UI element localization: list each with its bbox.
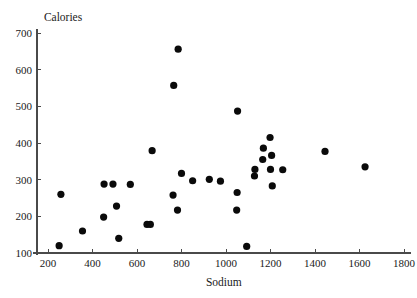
y-tick-label: 200	[15, 210, 32, 222]
data-point	[189, 177, 196, 184]
data-point	[259, 156, 266, 163]
data-point	[170, 82, 177, 89]
data-point	[243, 243, 250, 250]
data-point	[251, 166, 258, 173]
y-tick-label: 400	[15, 137, 32, 149]
x-tick-label: 1400	[304, 257, 327, 269]
data-point	[169, 191, 176, 198]
x-tick-label: 600	[129, 257, 146, 269]
data-point	[174, 207, 181, 214]
x-tick-label: 1800	[393, 257, 416, 269]
y-axis-title: Calories	[44, 11, 83, 23]
data-point	[178, 170, 185, 177]
data-point	[251, 172, 258, 179]
data-point	[175, 46, 182, 53]
x-tick-label: 1600	[349, 257, 372, 269]
x-tick-label: 800	[173, 257, 190, 269]
scatter-plot-figure: 1002003004005006007002004006008001000120…	[0, 0, 417, 298]
y-tick-label: 100	[15, 247, 32, 259]
data-point	[149, 147, 156, 154]
data-point	[266, 134, 273, 141]
y-tick-label: 500	[15, 100, 32, 112]
data-point	[79, 227, 86, 234]
x-axis-title: Sodium	[206, 276, 242, 288]
y-tick-label: 600	[15, 64, 32, 76]
data-point	[113, 202, 120, 209]
data-point	[100, 213, 107, 220]
plot-canvas: 1002003004005006007002004006008001000120…	[0, 0, 417, 298]
data-point	[100, 180, 107, 187]
data-point	[234, 189, 241, 196]
data-point	[260, 145, 267, 152]
x-tick-label: 400	[84, 257, 101, 269]
data-point	[321, 148, 328, 155]
x-tick-label: 1200	[260, 257, 283, 269]
data-point	[147, 221, 154, 228]
data-point	[268, 152, 275, 159]
data-point	[56, 242, 63, 249]
data-point	[206, 176, 213, 183]
data-point	[269, 182, 276, 189]
data-point	[115, 235, 122, 242]
data-point	[361, 163, 368, 170]
data-point-group	[56, 46, 369, 250]
y-tick-label: 700	[15, 27, 32, 39]
data-point	[217, 178, 224, 185]
data-point	[234, 108, 241, 115]
data-point	[109, 180, 116, 187]
y-tick-label: 300	[15, 174, 32, 186]
data-point	[57, 191, 64, 198]
x-tick-label: 1000	[215, 257, 238, 269]
data-point	[279, 166, 286, 173]
data-point	[127, 181, 134, 188]
data-point	[233, 207, 240, 214]
data-point	[267, 166, 274, 173]
x-tick-label: 200	[40, 257, 57, 269]
